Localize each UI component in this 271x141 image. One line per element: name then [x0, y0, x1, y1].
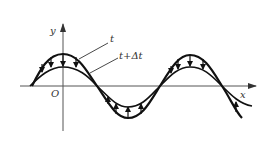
x-axis-label: x: [240, 89, 246, 100]
curve-t-dt-label: t+Δt: [119, 50, 144, 61]
origin-label: O: [51, 88, 59, 99]
leader-line-t: [79, 43, 108, 59]
wave-diagram: y x O t t+Δt: [0, 0, 271, 141]
leader-line-t-dt: [90, 58, 118, 73]
curve-t-label: t: [110, 33, 115, 44]
y-axis-label: y: [49, 25, 56, 36]
